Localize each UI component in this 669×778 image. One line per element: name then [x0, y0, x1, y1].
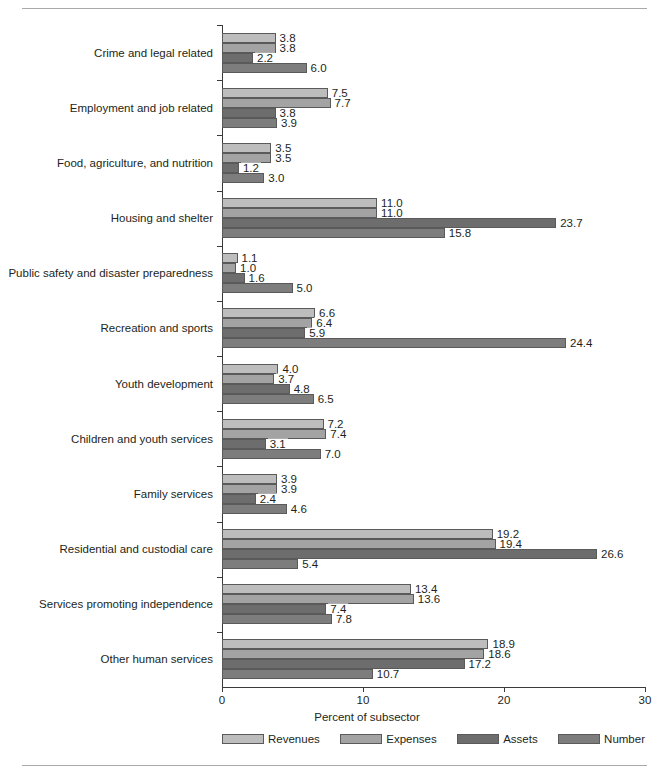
bar-row: 6.4 [222, 318, 645, 328]
value-label: 17.2 [467, 659, 493, 670]
value-label: 5.0 [295, 283, 315, 294]
category-label: Recreation and sports [100, 322, 213, 334]
bar-group: Food, agriculture, and nutrition3.53.51.… [222, 143, 645, 183]
bar-revenues [222, 308, 315, 318]
bar-number [222, 173, 264, 183]
value-label: 7.0 [323, 448, 343, 459]
bar-row: 3.5 [222, 153, 645, 163]
legend-item-expenses[interactable]: Expenses [340, 733, 437, 745]
bar-row: 15.8 [222, 228, 645, 238]
bar-group: Other human services18.918.617.210.7 [222, 639, 645, 679]
x-axis-tick-label: 10 [357, 694, 370, 706]
bar-number [222, 669, 373, 679]
bar-assets [222, 659, 465, 669]
category-label: Public safety and disaster preparedness [8, 267, 213, 279]
bar-expenses [222, 649, 484, 659]
x-axis-title: Percent of subsector [0, 711, 669, 723]
value-label: 23.7 [558, 218, 584, 229]
bar-row: 3.7 [222, 374, 645, 384]
bar-revenues [222, 88, 328, 98]
bar-group: Housing and shelter11.011.023.715.8 [222, 198, 645, 238]
bar-number [222, 559, 298, 569]
legend-item-revenues[interactable]: Revenues [222, 733, 320, 745]
value-label: 3.0 [266, 172, 286, 183]
legend-label: Revenues [268, 733, 320, 745]
x-axis-tick [504, 687, 505, 692]
bar-row: 23.7 [222, 218, 645, 228]
x-axis-line [222, 687, 646, 688]
bar-row: 6.6 [222, 308, 645, 318]
bar-revenues [222, 364, 278, 374]
value-label: 13.6 [416, 594, 442, 605]
y-axis-tick [217, 411, 222, 412]
legend-label: Expenses [386, 733, 437, 745]
bar-assets [222, 108, 276, 118]
bar-row: 3.8 [222, 43, 645, 53]
y-axis-tick [217, 135, 222, 136]
bar-assets [222, 53, 253, 63]
x-axis-tick [222, 687, 223, 692]
category-label: Food, agriculture, and nutrition [57, 157, 213, 169]
y-axis-tick [217, 301, 222, 302]
bar-row: 2.4 [222, 494, 645, 504]
bar-number [222, 118, 277, 128]
bar-number [222, 504, 287, 514]
x-axis-title-text: Percent of subsector [314, 711, 419, 723]
legend-swatch-icon [558, 734, 600, 744]
category-label: Residential and custodial care [60, 543, 213, 555]
bar-number [222, 228, 445, 238]
y-axis-tick [217, 522, 222, 523]
bar-number [222, 283, 293, 293]
bar-expenses [222, 98, 331, 108]
x-axis-tick-label: 30 [639, 694, 652, 706]
value-label: 2.4 [258, 493, 278, 504]
legend-item-assets[interactable]: Assets [457, 733, 538, 745]
x-axis-tick-label: 0 [219, 694, 225, 706]
legend-label: Number [604, 733, 645, 745]
category-label: Family services [134, 488, 213, 500]
value-label: 26.6 [599, 549, 625, 560]
bar-row: 19.2 [222, 529, 645, 539]
bar-number [222, 449, 321, 459]
bar-row: 7.0 [222, 449, 645, 459]
value-label: 1.2 [241, 162, 261, 173]
bar-revenues [222, 474, 277, 484]
bar-group: Crime and legal related3.83.82.26.0 [222, 33, 645, 73]
value-label: 6.5 [316, 393, 336, 404]
bar-row: 19.4 [222, 539, 645, 549]
category-label: Youth development [115, 378, 213, 390]
bar-row: 26.6 [222, 549, 645, 559]
value-label: 24.4 [568, 338, 594, 349]
bar-expenses [222, 374, 274, 384]
bar-revenues [222, 584, 411, 594]
bar-row: 2.2 [222, 53, 645, 63]
bar-revenues [222, 639, 488, 649]
bar-row: 3.9 [222, 484, 645, 494]
category-label: Employment and job related [70, 102, 213, 114]
bar-revenues [222, 143, 271, 153]
value-label: 3.8 [278, 42, 298, 53]
bar-revenues [222, 33, 276, 43]
plot-area: Crime and legal related3.83.82.26.0Emplo… [222, 25, 645, 687]
category-label: Crime and legal related [94, 47, 213, 59]
x-axis-tick [363, 687, 364, 692]
value-label: 15.8 [447, 228, 473, 239]
bar-revenues [222, 198, 377, 208]
value-label: 3.1 [268, 438, 288, 449]
bar-row: 1.1 [222, 253, 645, 263]
legend-swatch-icon [457, 734, 499, 744]
bar-row: 7.5 [222, 88, 645, 98]
bar-group: Employment and job related7.57.73.83.9 [222, 88, 645, 128]
x-axis-tick-label: 20 [498, 694, 511, 706]
bar-assets [222, 163, 239, 173]
bar-revenues [222, 529, 493, 539]
value-label: 4.6 [289, 503, 309, 514]
bar-row: 11.0 [222, 198, 645, 208]
bar-number [222, 394, 314, 404]
bar-expenses [222, 318, 312, 328]
y-axis-tick [217, 577, 222, 578]
legend-item-number[interactable]: Number [558, 733, 645, 745]
legend-label: Assets [503, 733, 538, 745]
bar-row: 24.4 [222, 338, 645, 348]
bar-assets [222, 604, 326, 614]
